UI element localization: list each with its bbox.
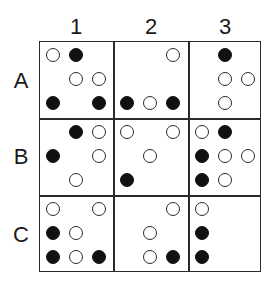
open-circle-icon — [241, 149, 255, 163]
column-label-2: 2 — [141, 14, 161, 40]
filled-circle-icon — [92, 96, 106, 110]
row-label-c: C — [10, 222, 32, 248]
filled-circle-icon — [69, 125, 83, 139]
open-circle-icon — [166, 202, 180, 216]
open-circle-icon — [195, 202, 209, 216]
open-circle-icon — [143, 96, 157, 110]
filled-circle-icon — [218, 48, 232, 62]
open-circle-icon — [218, 149, 232, 163]
open-circle-icon — [92, 72, 106, 86]
open-circle-icon — [92, 202, 106, 216]
row-label-a: A — [10, 68, 32, 94]
column-label-1: 1 — [66, 14, 86, 40]
filled-circle-icon — [218, 125, 232, 139]
grid-divider-vertical-1 — [113, 42, 115, 271]
open-circle-icon — [69, 250, 83, 264]
open-circle-icon — [166, 48, 180, 62]
open-circle-icon — [143, 149, 157, 163]
grid-divider-horizontal-2 — [40, 195, 260, 197]
open-circle-icon — [69, 72, 83, 86]
open-circle-icon — [46, 48, 60, 62]
grid-divider-horizontal-1 — [40, 118, 260, 120]
open-circle-icon — [69, 173, 83, 187]
open-circle-icon — [218, 72, 232, 86]
open-circle-icon — [143, 226, 157, 240]
filled-circle-icon — [92, 250, 106, 264]
filled-circle-icon — [120, 173, 134, 187]
filled-circle-icon — [166, 96, 180, 110]
filled-circle-icon — [46, 149, 60, 163]
open-circle-icon — [69, 226, 83, 240]
open-circle-icon — [120, 125, 134, 139]
filled-circle-icon — [69, 48, 83, 62]
open-circle-icon — [92, 125, 106, 139]
open-circle-icon — [46, 202, 60, 216]
open-circle-icon — [218, 96, 232, 110]
filled-circle-icon — [46, 226, 60, 240]
open-circle-icon — [143, 250, 157, 264]
filled-circle-icon — [120, 96, 134, 110]
open-circle-icon — [241, 72, 255, 86]
filled-circle-icon — [195, 226, 209, 240]
open-circle-icon — [92, 149, 106, 163]
open-circle-icon — [195, 125, 209, 139]
filled-circle-icon — [195, 173, 209, 187]
filled-circle-icon — [195, 250, 209, 264]
row-label-b: B — [10, 144, 32, 170]
open-circle-icon — [166, 125, 180, 139]
filled-circle-icon — [166, 250, 180, 264]
column-label-3: 3 — [215, 14, 235, 40]
grid-divider-vertical-2 — [188, 42, 190, 271]
filled-circle-icon — [195, 149, 209, 163]
open-circle-icon — [218, 173, 232, 187]
filled-circle-icon — [46, 96, 60, 110]
dot-pattern-grid — [39, 41, 261, 272]
filled-circle-icon — [46, 250, 60, 264]
